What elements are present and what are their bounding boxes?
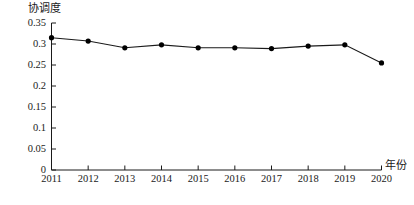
y-axis-ticks bbox=[52, 23, 57, 170]
data-point bbox=[49, 35, 54, 40]
data-point bbox=[122, 45, 127, 50]
data-point bbox=[86, 38, 91, 43]
data-point bbox=[196, 45, 201, 50]
x-tick-label: 2011 bbox=[41, 174, 62, 185]
data-point bbox=[159, 42, 164, 47]
x-tick-label: 2014 bbox=[151, 174, 172, 185]
data-point bbox=[306, 44, 311, 49]
data-point bbox=[232, 45, 237, 50]
x-tick-label: 2017 bbox=[261, 174, 282, 185]
coordination-degree-line-chart: 协调度 年份 00.050.10.150.20.250.30.35 201120… bbox=[0, 0, 414, 205]
y-tick-label: 0.1 bbox=[8, 123, 46, 134]
y-tick-label: 0.25 bbox=[8, 60, 46, 71]
x-tick-label: 2020 bbox=[371, 174, 392, 185]
data-point bbox=[379, 60, 384, 65]
x-tick-label: 2018 bbox=[298, 174, 319, 185]
data-point bbox=[342, 42, 347, 47]
x-tick-label: 2016 bbox=[224, 174, 245, 185]
x-tick-label: 2015 bbox=[188, 174, 209, 185]
y-tick-label: 0.15 bbox=[8, 102, 46, 113]
x-tick-label: 2012 bbox=[78, 174, 99, 185]
y-tick-label: 0.3 bbox=[8, 39, 46, 50]
data-point bbox=[269, 46, 274, 51]
x-axis-ticks bbox=[52, 166, 382, 171]
y-tick-label: 0.05 bbox=[8, 144, 46, 155]
data-point-markers bbox=[49, 35, 384, 65]
x-tick-label: 2013 bbox=[114, 174, 135, 185]
data-series-line bbox=[52, 38, 382, 63]
y-tick-label: 0.35 bbox=[8, 18, 46, 29]
y-tick-label: 0.2 bbox=[8, 81, 46, 92]
x-tick-label: 2019 bbox=[334, 174, 355, 185]
